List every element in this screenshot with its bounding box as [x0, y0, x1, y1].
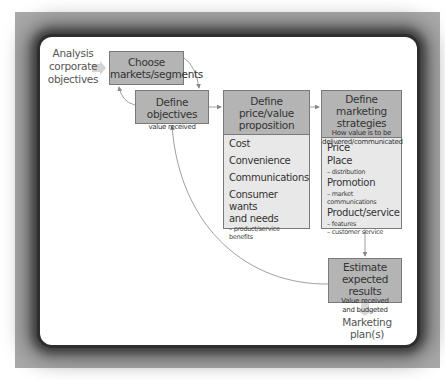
input-label-analysis-corporate-objectives: Analysis corporate objectives: [44, 47, 102, 86]
list-item-place: Place: [327, 155, 396, 167]
item-line: Consumer wants: [229, 189, 278, 212]
node-define-marketing-strategies: Define marketing strategies How value is…: [321, 90, 402, 229]
list-item-cost: Cost: [229, 138, 304, 150]
list-item-convenience: Convenience: [229, 155, 304, 167]
list-item-promotion: Promotion: [327, 177, 396, 189]
node-title: Estimate expected: [329, 261, 401, 285]
node-title: Choose: [110, 56, 183, 68]
node-body-list: Price Place – distribution Promotion – m…: [322, 138, 401, 236]
node-define-objectives: Define objectives value received: [135, 90, 209, 124]
list-subitem: – distribution: [327, 168, 396, 176]
node-title: strategies: [322, 117, 401, 129]
list-item-product-service: Product/service: [327, 207, 396, 219]
input-line-2: corporate: [49, 60, 97, 72]
node-title: markets/segments: [110, 68, 183, 80]
node-body-list: Cost Convenience Communications Consumer…: [224, 135, 309, 241]
node-header: Define marketing strategies How value is…: [322, 91, 401, 138]
output-label-marketing-plans: Marketing plan(s): [326, 316, 408, 340]
node-subtitle: value received: [136, 123, 208, 132]
node-title: proposition: [224, 119, 309, 131]
input-line-1: Analysis: [53, 47, 94, 59]
node-title: Define: [224, 95, 309, 107]
list-subitem: – features: [327, 220, 396, 228]
node-define-price-value: Define price/value proposition Cost Conv…: [223, 90, 310, 229]
node-subtitle: Value received: [329, 297, 401, 306]
node-subtitle: and budgeted: [329, 306, 401, 315]
input-line-3: objectives: [48, 73, 98, 85]
item-line: and needs: [229, 213, 279, 224]
node-subtitle: How value is to be: [322, 129, 401, 138]
node-title: results: [329, 285, 401, 297]
list-item-communications: Communications: [229, 172, 304, 184]
node-title: price/value: [224, 107, 309, 119]
node-header: Define price/value proposition: [224, 91, 309, 135]
list-subitem: – market communications: [327, 190, 396, 206]
list-item-consumer-wants: Consumer wants and needs: [229, 189, 304, 225]
node-estimate-expected-results: Estimate expected results Value received…: [328, 258, 402, 303]
list-subitem: – customer service: [327, 228, 396, 236]
node-title: Define marketing: [322, 93, 401, 117]
node-choose-markets: Choose markets/segments: [109, 51, 184, 85]
list-subitem: – product/service benefits: [229, 225, 304, 241]
node-title: Define objectives: [136, 96, 208, 120]
